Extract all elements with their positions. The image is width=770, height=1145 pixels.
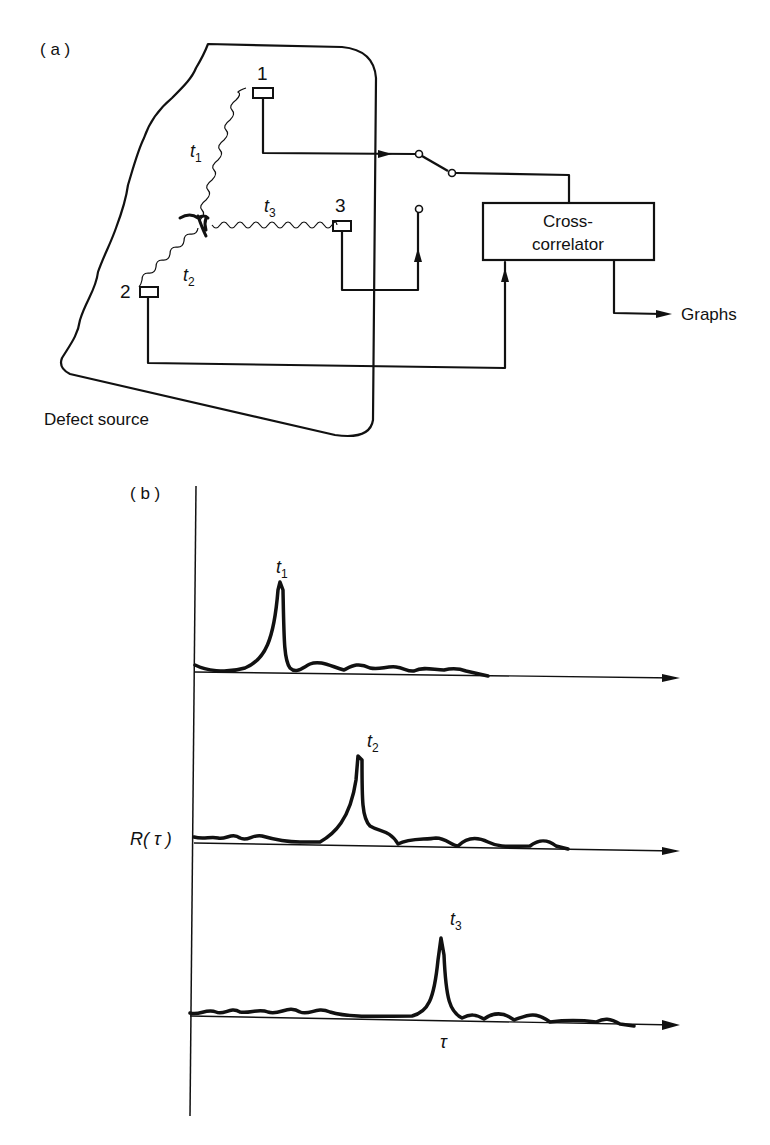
wire-sensor-3: [342, 213, 418, 290]
sensor-1-label: 1: [257, 63, 268, 84]
peak-label-t2: t2: [367, 731, 379, 755]
path-label-t1: t1: [190, 141, 202, 165]
graphs-label: Graphs: [681, 305, 737, 324]
sensor-2-box: [140, 287, 158, 297]
panel-b-label: ( b ): [130, 484, 160, 503]
trace-1: [195, 582, 488, 676]
sensor-2-label: 2: [120, 281, 131, 302]
figure-canvas: ( a ) 1 3 2 t1 t3 t2 Cross- correlator G…: [0, 0, 770, 1145]
wire-switch-out: [456, 173, 569, 203]
arrow-icon: [662, 1020, 680, 1030]
wire-output: [614, 261, 662, 314]
arrow-icon: [378, 150, 392, 158]
arrow-icon: [414, 248, 422, 262]
switch-contact-1: [416, 151, 423, 158]
peak-label-t1: t1: [276, 557, 288, 581]
x-axis-label: τ: [440, 1032, 448, 1052]
x-axis-1: [194, 672, 676, 678]
arrow-icon: [662, 847, 680, 855]
trace-3: [190, 938, 634, 1026]
arrow-icon: [656, 310, 672, 318]
wave-path-t3: [212, 222, 337, 228]
arrow-icon: [501, 268, 509, 282]
arrow-icon: [662, 674, 680, 682]
switch-common: [449, 170, 456, 177]
path-label-t3: t3: [264, 196, 276, 220]
correlator-label-line2: correlator: [532, 235, 604, 254]
switch-lever: [422, 156, 448, 171]
panel-a-label: ( a ): [40, 40, 70, 59]
path-label-t2: t2: [183, 265, 195, 289]
x-axis-2: [194, 843, 676, 851]
defect-source-icon: [180, 215, 208, 236]
trace-2: [194, 756, 568, 849]
wire-sensor-2: [148, 262, 505, 368]
sensor-3-label: 3: [335, 195, 346, 216]
y-axis: [190, 486, 196, 1116]
defect-source-label: Defect source: [44, 410, 149, 429]
y-axis-label: R( τ ): [130, 829, 172, 849]
switch-contact-3: [416, 206, 423, 213]
plate-outline: [61, 44, 376, 436]
wave-path-t1: [200, 88, 246, 220]
sensor-1-box: [253, 88, 273, 98]
correlator-label-line1: Cross-: [543, 212, 593, 231]
wire-sensor-1: [263, 98, 415, 154]
peak-label-t3: t3: [450, 909, 462, 933]
